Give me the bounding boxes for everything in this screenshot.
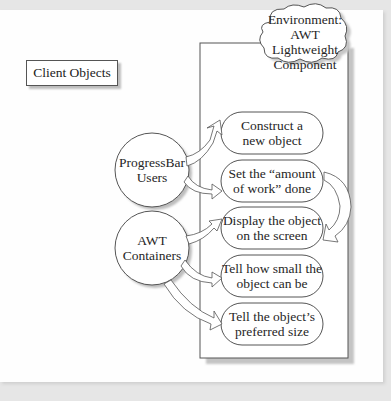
- client-line2: Users: [115, 170, 189, 185]
- environment-line1: Environment:: [262, 12, 348, 27]
- environment-line3: Component: [262, 57, 348, 72]
- service-label: Construct a new object: [221, 118, 323, 148]
- service-line1: Construct a: [221, 118, 323, 133]
- service-label: Tell how small the object can be: [221, 261, 323, 291]
- environment-line2: AWT Lightweight: [262, 27, 348, 57]
- service-line2: preferred size: [221, 324, 323, 339]
- service-line2: new object: [221, 133, 323, 148]
- service-line2: object can be: [221, 276, 323, 291]
- service-label: Tell the object’s preferred size: [221, 309, 323, 339]
- service-line1: Tell how small the: [221, 261, 323, 276]
- progressbar-users-label: ProgressBar Users: [115, 155, 189, 185]
- service-label: Set the “amount of work” done: [221, 166, 323, 196]
- client-objects-box: Client Objects: [26, 60, 118, 86]
- service-line1: Set the “amount: [221, 166, 323, 181]
- service-line2: of work” done: [221, 181, 323, 196]
- service-label: Display the object on the screen: [221, 213, 323, 243]
- environment-label: Environment: AWT Lightweight Component: [262, 12, 348, 72]
- client-objects-label: Client Objects: [33, 65, 111, 81]
- service-line1: Display the object: [221, 213, 323, 228]
- service-line2: on the screen: [221, 228, 323, 243]
- client-line1: ProgressBar: [115, 155, 189, 170]
- client-line1: AWT: [115, 233, 189, 248]
- awt-containers-label: AWT Containers: [115, 233, 189, 263]
- service-line1: Tell the object’s: [221, 309, 323, 324]
- client-line2: Containers: [115, 248, 189, 263]
